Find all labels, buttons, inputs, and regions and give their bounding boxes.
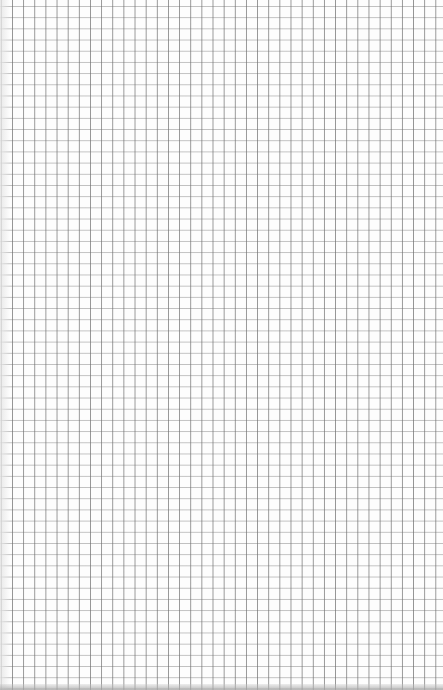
page-edge-shadow (0, 0, 10, 690)
graph-paper-sheet (0, 0, 443, 690)
bottom-edge-shadow (0, 684, 443, 690)
